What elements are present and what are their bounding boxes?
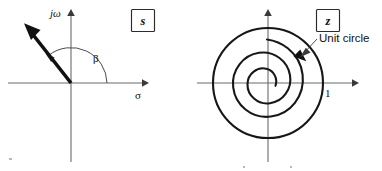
s-plane-box-tag: s: [132, 10, 155, 32]
s-plane-panel: jω σ β s: [8, 7, 155, 162]
z-plane-panel: Unit circle 1 z: [197, 9, 369, 162]
z-plane-imaginary-axis: [264, 9, 272, 162]
pole-vector: [24, 23, 71, 83]
unit-circle-label: Unit circle: [319, 32, 369, 44]
s-plane-imaginary-axis-label: jω: [48, 7, 61, 19]
figure-root: jω σ β s: [0, 0, 382, 171]
s-plane-imaginary-axis: [67, 9, 75, 162]
z-plane-real-axis: [197, 79, 359, 87]
z-plane-box-label: z: [325, 14, 331, 28]
scan-artifacts: [9, 158, 292, 168]
z-plane-box-tag: z: [317, 10, 340, 32]
s-plane-real-axis: [8, 79, 149, 87]
real-axis-tick-label-one: 1: [325, 87, 331, 99]
s-plane-box-label: s: [140, 14, 146, 28]
s-plane-real-axis-label: σ: [135, 89, 141, 101]
beta-angle-label: β: [93, 52, 99, 64]
